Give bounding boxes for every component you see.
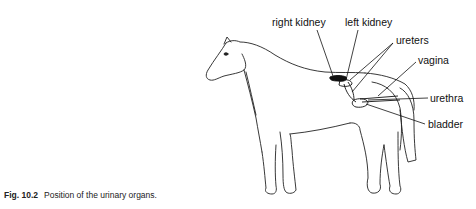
horse-ear — [224, 37, 231, 44]
horse-urinary-diagram — [0, 0, 476, 209]
ureter-lines — [344, 82, 356, 102]
horse-neck-front — [244, 70, 262, 152]
label-bladder: bladder — [428, 118, 463, 130]
leader-right-kidney — [317, 30, 333, 76]
horse-neck-front-2 — [246, 72, 256, 115]
leader-ureters-2 — [352, 43, 393, 92]
bladder-shape — [352, 99, 368, 108]
figure-number: Fig. 10.2 — [4, 190, 38, 200]
figure-caption-text: Position of the urinary organs. — [44, 190, 157, 200]
leader-bladder — [366, 104, 425, 124]
label-vagina: vagina — [418, 54, 449, 66]
label-left-kidney: left kidney — [345, 16, 392, 28]
label-urethra: urethra — [430, 92, 463, 104]
horse-head — [226, 41, 365, 73]
horse-belly — [290, 123, 350, 134]
horse-rump — [372, 82, 402, 150]
label-ureters: ureters — [396, 34, 429, 46]
horse-hind-leg-2 — [384, 132, 401, 194]
horse-face — [206, 43, 245, 80]
horse-front-leg-2 — [280, 132, 296, 193]
horse-front-leg-1 — [262, 145, 276, 194]
leader-ureters-1 — [350, 43, 393, 80]
label-right-kidney: right kidney — [272, 16, 326, 28]
figure-caption: Fig. 10.2Position of the urinary organs. — [4, 190, 157, 200]
right-kidney-shape — [330, 76, 347, 82]
horse-hind-leg-1 — [350, 123, 384, 193]
horse-eye — [224, 53, 228, 55]
horse-back — [365, 73, 414, 110]
